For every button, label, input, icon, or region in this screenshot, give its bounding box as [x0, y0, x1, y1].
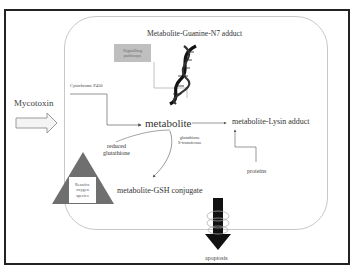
- black-down-arrow-icon: [205, 198, 231, 250]
- proteins-arrow: [235, 130, 256, 162]
- gsh-conjugate-label: metabolite-GSH conjugate: [117, 187, 203, 196]
- reduced-line2: glutathione: [103, 150, 130, 157]
- hollow-right-arrow-icon: [16, 113, 57, 133]
- reduced-glutathione-label: reduced glutathione: [103, 143, 130, 156]
- cytochrome-p450-label: Cytochrome P450: [70, 84, 103, 89]
- lysin-adduct-label: metabolite-Lysin adduct: [232, 118, 310, 127]
- ros-line2: oxygen: [75, 187, 90, 192]
- reduced-gsh-curve: [116, 130, 170, 142]
- mycotoxin-label: Mycotoxin: [14, 99, 54, 109]
- cyp-arrow: [70, 94, 141, 125]
- proteins-label: proteins: [247, 168, 266, 175]
- reduced-line1: reduced: [103, 143, 130, 150]
- connectors: [0, 0, 354, 272]
- gst-line2: S-transferase: [178, 141, 202, 146]
- metabolite-label: metabolite: [145, 117, 191, 129]
- signalling-line2: pathways: [123, 53, 142, 58]
- apoptosis-label: apoptosis: [205, 255, 228, 262]
- guanine-adduct-label: Metabolite-Guanine-N7 adduct: [147, 30, 242, 38]
- dna-helix-icon: [170, 46, 196, 104]
- ros-line3: species: [75, 193, 90, 198]
- gst-label: glutathione S-transferase: [178, 136, 202, 146]
- ros-box: Reactive oxygen species: [69, 177, 96, 203]
- gsh-conjugate-arrow: [153, 131, 172, 177]
- signalling-pathways-box: Signalling pathways: [114, 44, 151, 62]
